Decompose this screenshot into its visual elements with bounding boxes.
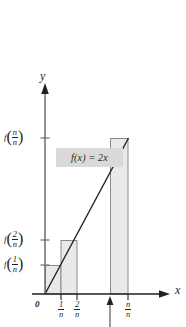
y-tick-label-f1-n: f ( 1 n ) — [4, 255, 23, 274]
formula-callout: f(x) = 2x — [56, 148, 123, 167]
x-tick-fraction: 2 n — [74, 300, 80, 319]
y-tick-label-fn-n: f ( n n ) — [4, 128, 23, 147]
y-tick-close-paren: ) — [18, 258, 23, 271]
y-tick-close-paren: ) — [18, 131, 23, 144]
x-tick-numerator: 1 — [58, 300, 64, 309]
x-tick-numerator: n — [125, 300, 131, 309]
x-tick-label-2-n: 2 n — [71, 300, 83, 319]
x-tick-label-n-n: n n — [122, 300, 134, 319]
x-tick-fraction: n n — [125, 300, 131, 319]
x-tick-label-1-n: 1 n — [55, 300, 67, 319]
x-tick-denominator: n — [125, 309, 131, 319]
y-tick-close-paren: ) — [18, 233, 23, 246]
y-axis-label: y — [40, 70, 45, 82]
x-tick-numerator: 2 — [74, 300, 80, 309]
x-tick-denominator: n — [74, 309, 80, 319]
formula-text: f(x) = 2x — [71, 152, 108, 163]
x-tick-fraction: 1 n — [58, 300, 64, 319]
ellipsis-pointer-head — [107, 296, 114, 305]
x-axis-arrowhead — [159, 290, 170, 298]
x-axis-label: x — [175, 284, 180, 296]
y-axis-arrowhead — [41, 83, 49, 94]
riemann-sum-figure: y x f ( n n ) f ( 2 n ) f ( 1 n ) f(x) =… — [0, 0, 186, 327]
x-tick-denominator: n — [58, 309, 64, 319]
y-tick-label-f2-n: f ( 2 n ) — [4, 230, 23, 249]
x-tick-label-0: 0 — [35, 299, 40, 309]
